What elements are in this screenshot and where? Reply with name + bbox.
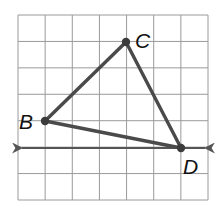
- point-b: [41, 117, 49, 125]
- geometry-diagram: C B D: [0, 0, 220, 218]
- label-c: C: [135, 29, 151, 52]
- point-d: [177, 144, 185, 152]
- grid: [18, 15, 208, 200]
- label-d: D: [183, 155, 198, 178]
- triangle-bcd: [45, 42, 181, 148]
- label-b: B: [19, 110, 33, 133]
- point-c: [122, 38, 130, 46]
